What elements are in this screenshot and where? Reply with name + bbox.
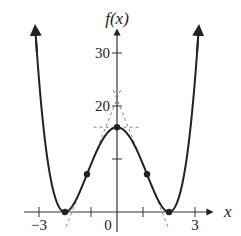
axes xyxy=(24,32,210,232)
y-tick-label: 20 xyxy=(95,98,110,114)
x-tick-label: −3 xyxy=(31,217,47,233)
function-graph: −3032030xf(x) xyxy=(0,0,241,236)
axis-labels: −3032030xf(x) xyxy=(31,9,232,233)
x-tick-label: 3 xyxy=(191,217,199,233)
marked-point xyxy=(144,171,150,177)
y-tick-label: 30 xyxy=(95,45,110,61)
marked-point xyxy=(84,171,90,177)
curve-arrow-left xyxy=(35,30,37,52)
marked-point xyxy=(62,209,68,215)
marked-point xyxy=(114,124,120,130)
x-tick-label: 0 xyxy=(104,217,112,233)
x-axis-label: x xyxy=(223,202,232,221)
curve-arrow-right xyxy=(197,30,199,52)
y-axis-label: f(x) xyxy=(105,9,129,28)
marked-point xyxy=(166,209,172,215)
